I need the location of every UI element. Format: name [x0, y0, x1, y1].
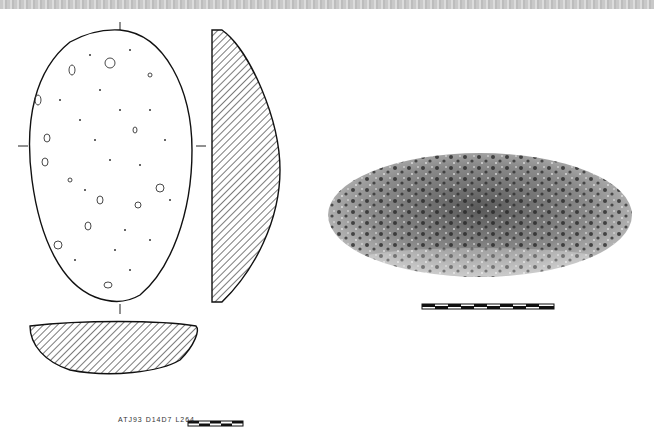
artifact-plate [0, 0, 654, 432]
plan-view-drawing [18, 22, 206, 314]
transverse-section-drawing [30, 322, 197, 374]
artifact-photograph [328, 153, 632, 277]
scale-bar-photo [422, 304, 554, 309]
scale-bar-drawing [188, 421, 243, 426]
catalog-label: ATJ93 D14D7 L264 [118, 416, 195, 423]
profile-section-drawing [212, 30, 280, 302]
